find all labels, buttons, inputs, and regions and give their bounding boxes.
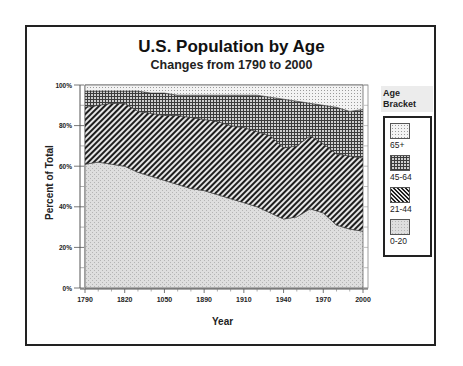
legend-item-0-20: 0-20 — [390, 219, 430, 246]
x-tick-label: 2000 — [355, 296, 371, 303]
legend-swatch-21-44 — [390, 187, 410, 203]
legend-item-65plus: 65+ — [390, 123, 430, 150]
x-tick-label: 1910 — [236, 296, 252, 303]
y-tick-label: 0% — [63, 285, 73, 292]
y-tick-label: 80% — [59, 122, 72, 129]
y-tick-label: 100% — [55, 82, 72, 89]
x-tick-label: 1970 — [315, 296, 331, 303]
x-tick-label: 1790 — [77, 296, 93, 303]
legend-title: Age Bracket — [381, 86, 433, 112]
x-tick-label: 1940 — [276, 296, 292, 303]
legend-swatch-45-64 — [390, 155, 410, 171]
legend-item-21-44: 21-44 — [390, 187, 430, 214]
legend-label: 21-44 — [390, 204, 430, 214]
legend-label: 45-64 — [390, 172, 430, 182]
x-tick-label: 1050 — [157, 296, 173, 303]
stacked-areas — [85, 85, 368, 288]
x-axis-label: Year — [212, 316, 233, 327]
y-tick-label: 40% — [59, 203, 72, 210]
legend-swatch-0-20 — [390, 219, 410, 235]
legend-label: 65+ — [390, 140, 430, 150]
legend-item-45-64: 45-64 — [390, 155, 430, 182]
y-tick-label: 20% — [59, 244, 72, 251]
legend-label: 0-20 — [390, 236, 430, 246]
legend: 65+ 45-64 21-44 0-20 — [383, 116, 432, 257]
x-tick-label: 1820 — [117, 296, 133, 303]
y-axis-label: Percent of Total — [44, 145, 55, 220]
x-tick-label: 1890 — [196, 296, 212, 303]
legend-swatch-65plus — [390, 123, 410, 139]
y-tick-label: 60% — [59, 163, 72, 170]
